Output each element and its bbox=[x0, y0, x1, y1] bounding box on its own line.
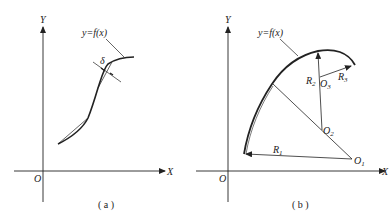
approximation-segments-a bbox=[58, 62, 112, 144]
caption-a: ( a ) bbox=[98, 199, 114, 211]
origin-label-a: O bbox=[34, 173, 41, 184]
panel-b: Y X O R1 R2 R3 O1 O2 O3 y=f(x) ( b ) bbox=[196, 14, 389, 211]
radius-r2 bbox=[318, 53, 322, 130]
center-label-o1: O1 bbox=[354, 155, 365, 168]
x-axis-label-b: X bbox=[381, 166, 389, 177]
x-axis-label-a: X bbox=[166, 166, 174, 177]
curve-leader-a bbox=[106, 39, 124, 57]
radius-label-r2: R2 bbox=[305, 75, 316, 88]
curve-a bbox=[58, 57, 134, 144]
panel-a: Y X O δ y=f(x) ( a ) bbox=[14, 14, 174, 211]
y-axis-label-a: Y bbox=[40, 14, 47, 25]
curve-b-inner bbox=[246, 86, 273, 154]
caption-b: ( b ) bbox=[292, 199, 309, 211]
center-label-o2: O2 bbox=[323, 125, 334, 138]
curve-label-a: y=f(x) bbox=[81, 27, 108, 39]
radius-label-r3: R3 bbox=[337, 71, 348, 84]
curve-leader-b bbox=[280, 39, 298, 56]
curve-b bbox=[244, 50, 355, 154]
radius-o1-o2 bbox=[273, 84, 352, 159]
radius-r1 bbox=[246, 154, 352, 159]
origin-label-b: O bbox=[219, 173, 226, 184]
center-label-o3: O3 bbox=[320, 78, 331, 91]
curve-label-b: y=f(x) bbox=[257, 27, 284, 39]
diagram-canvas: Y X O δ y=f(x) ( a ) Y X O R1 R2 R3 bbox=[0, 0, 391, 220]
y-axis-label-b: Y bbox=[225, 14, 232, 25]
tolerance-label-a: δ bbox=[100, 55, 105, 66]
